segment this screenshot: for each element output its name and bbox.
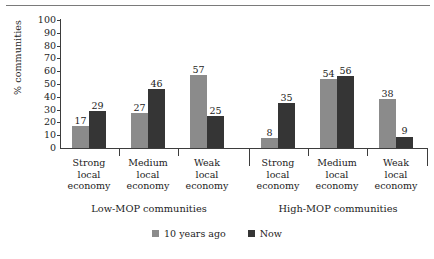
bar-g2-now xyxy=(207,116,224,148)
category-label-2-line2: local xyxy=(174,169,240,181)
category-label-5-line3: economy xyxy=(363,180,429,192)
bar-value-g2-now: 25 xyxy=(200,105,231,116)
y-tick-label-80: 80 xyxy=(32,41,56,51)
bar-value-g3-now: 35 xyxy=(271,92,302,103)
y-tick-label-10: 10 xyxy=(32,130,56,140)
x-axis-separator-1 xyxy=(119,149,120,156)
bar-g1-past xyxy=(131,113,148,148)
category-label-5-line2: local xyxy=(363,169,429,181)
x-axis-separator-2 xyxy=(178,149,179,156)
category-label-2: Weak local economy xyxy=(174,157,240,192)
y-tick-label-60: 60 xyxy=(32,66,56,76)
y-tick-label-90: 90 xyxy=(32,28,56,38)
x-axis-separator-4 xyxy=(367,149,368,156)
bar-value-g0-now: 29 xyxy=(82,100,113,111)
bar-g4-past xyxy=(320,79,337,148)
bar-value-g1-past: 27 xyxy=(124,102,155,113)
y-tick-label-100: 100 xyxy=(32,15,56,25)
category-label-4-line2: local xyxy=(304,169,370,181)
legend-swatch-past-icon xyxy=(152,230,159,237)
category-label-1-line2: local xyxy=(115,169,181,181)
bar-value-g5-past: 38 xyxy=(372,88,403,99)
bar-g4-now xyxy=(337,76,354,148)
bar-g5-now xyxy=(396,137,413,149)
category-label-1: Medium local economy xyxy=(115,157,181,192)
y-tick-label-0: 0 xyxy=(32,143,56,153)
y-axis-title: % communities xyxy=(12,3,23,113)
bar-g3-now xyxy=(278,103,295,148)
legend-label-past: 10 years ago xyxy=(164,228,226,239)
bar-value-g0-past: 17 xyxy=(65,115,96,126)
category-label-3-line3: economy xyxy=(245,180,311,192)
y-tick-label-40: 40 xyxy=(32,92,56,102)
panel-label-low-mop: Low-MOP communities xyxy=(59,203,239,214)
bar-value-g2-past: 57 xyxy=(183,64,214,75)
legend-label-now: Now xyxy=(260,228,282,239)
category-label-4-line3: economy xyxy=(304,180,370,192)
category-label-0: Strong local economy xyxy=(56,157,122,192)
category-label-1-line1: Medium xyxy=(115,157,181,169)
legend-swatch-now-icon xyxy=(248,230,255,237)
category-label-2-line3: economy xyxy=(174,180,240,192)
bar-chart-figure: % communities 100 90 80 70 60 50 40 30 2… xyxy=(0,0,434,259)
chart-legend: 10 years ago Now xyxy=(0,228,434,239)
category-label-2-line1: Weak xyxy=(174,157,240,169)
category-label-3-line1: Strong xyxy=(245,157,311,169)
panel-label-high-mop: High-MOP communities xyxy=(248,203,428,214)
category-label-5-line1: Weak xyxy=(363,157,429,169)
bar-value-g1-now: 46 xyxy=(141,78,172,89)
bar-g3-past xyxy=(261,138,278,148)
bar-g0-past xyxy=(72,126,89,148)
bars-layer: 17 29 27 46 57 25 8 35 54 56 38 9 xyxy=(60,20,428,148)
bar-value-g3-past: 8 xyxy=(254,127,285,138)
category-label-5: Weak local economy xyxy=(363,157,429,192)
category-label-1-line3: economy xyxy=(115,180,181,192)
top-divider-rule xyxy=(6,5,430,6)
legend-item-now[interactable]: Now xyxy=(248,228,282,239)
category-label-0-line3: economy xyxy=(56,180,122,192)
y-tick-label-30: 30 xyxy=(32,105,56,115)
category-label-3: Strong local economy xyxy=(245,157,311,192)
y-tick-label-20: 20 xyxy=(32,117,56,127)
bar-value-g4-now: 56 xyxy=(330,65,361,76)
y-axis-tick-labels: 100 90 80 70 60 50 40 30 20 10 0 xyxy=(28,20,56,148)
bar-value-g5-now: 9 xyxy=(389,125,420,136)
category-label-0-line2: local xyxy=(56,169,122,181)
bar-g1-now xyxy=(148,89,165,148)
x-axis-line xyxy=(60,148,428,149)
y-tick-label-70: 70 xyxy=(32,53,56,63)
x-axis-separator-3 xyxy=(308,149,309,156)
legend-item-past[interactable]: 10 years ago xyxy=(152,228,226,239)
category-label-3-line2: local xyxy=(245,169,311,181)
bar-g5-past xyxy=(379,99,396,148)
category-label-4-line1: Medium xyxy=(304,157,370,169)
y-tick-label-50: 50 xyxy=(32,79,56,89)
category-label-0-line1: Strong xyxy=(56,157,122,169)
category-label-4: Medium local economy xyxy=(304,157,370,192)
